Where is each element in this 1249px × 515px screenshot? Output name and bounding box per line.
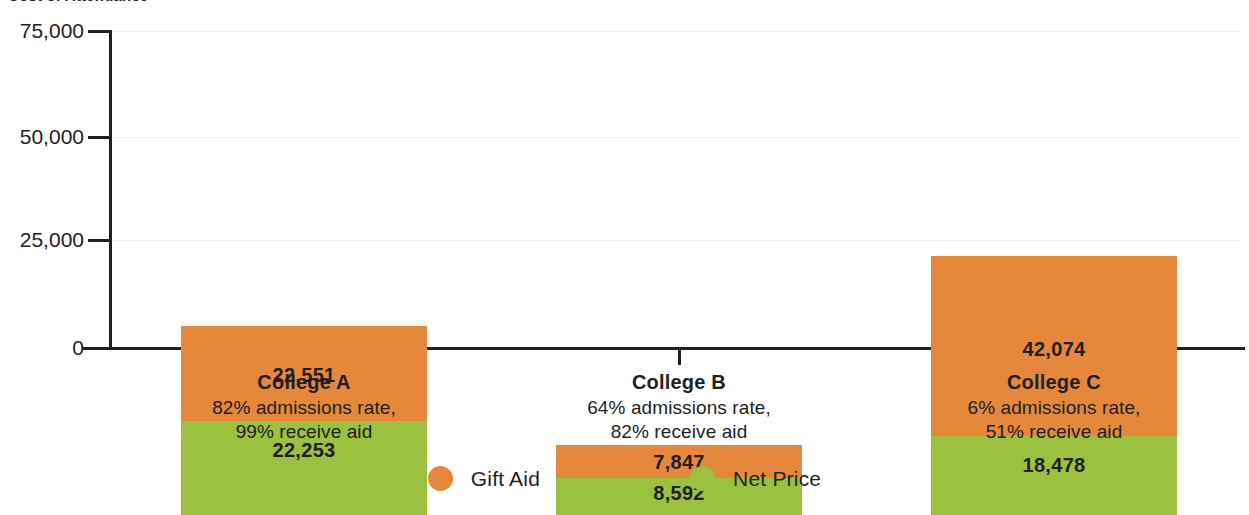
category-name-c: College C [931, 370, 1177, 396]
chart-legend: Gift Aid Net Price [0, 466, 1249, 491]
y-axis-line [109, 30, 112, 349]
bar-college-b[interactable]: 7,847 8,592 [556, 167, 802, 515]
category-sub2-c: 51% receive aid [931, 420, 1177, 444]
category-label-college-c: College C 6% admissions rate, 51% receiv… [931, 370, 1177, 444]
bar-value-label-gift-aid-c: 42,074 [931, 338, 1177, 361]
category-name-b: College B [556, 370, 802, 396]
circle-swatch-icon-net-price [690, 466, 715, 491]
category-sub2-b: 82% receive aid [556, 420, 802, 444]
y-tick-label-25000: 25,000 [0, 228, 84, 252]
y-tick-25000 [88, 239, 110, 242]
category-sub2-a: 99% receive aid [181, 420, 427, 444]
legend-label-gift-aid: Gift Aid [471, 467, 540, 491]
gridline-50000 [111, 137, 1241, 138]
legend-label-net-price: Net Price [733, 467, 821, 491]
category-sub1-a: 82% admissions rate, [181, 396, 427, 420]
y-tick-75000 [88, 30, 110, 33]
legend-item-net-price[interactable]: Net Price [690, 466, 821, 491]
y-tick-label-50000: 50,000 [0, 125, 84, 149]
bar-college-c[interactable]: 42,074 18,478 [931, 167, 1177, 515]
y-tick-label-0: 0 [0, 336, 84, 360]
category-sub1-b: 64% admissions rate, [556, 396, 802, 420]
category-label-college-b: College B 64% admissions rate, 82% recei… [556, 370, 802, 444]
circle-swatch-icon-gift-aid [428, 466, 453, 491]
category-label-college-a: College A 82% admissions rate, 99% recei… [181, 370, 427, 444]
y-tick-label-75000: 75,000 [0, 19, 84, 43]
stacked-bar-chart: Cost of Attendance 75,000 50,000 25,000 … [0, 0, 1249, 515]
clipped-axis-title: Cost of Attendance [8, 0, 149, 5]
legend-item-gift-aid[interactable]: Gift Aid [428, 466, 540, 491]
bar-college-a[interactable]: 22,551 22,253 [181, 167, 427, 515]
category-name-a: College A [181, 370, 427, 396]
y-tick-50000 [88, 136, 110, 139]
category-sub1-c: 6% admissions rate, [931, 396, 1177, 420]
gridline-75000 [111, 31, 1241, 32]
